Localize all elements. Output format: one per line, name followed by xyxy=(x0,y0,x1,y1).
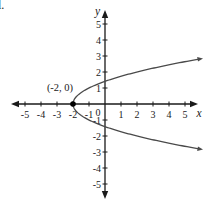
y-axis-bottom-arrow-icon xyxy=(102,191,108,199)
y-tick-label: -2 xyxy=(93,131,101,142)
x-tick-label: -4 xyxy=(37,109,45,120)
y-axis-top-arrow-icon xyxy=(102,10,108,18)
x-tick-label: 2 xyxy=(135,109,140,120)
origin-label: 0 xyxy=(96,107,101,118)
x-tick-label: 3 xyxy=(151,109,156,120)
y-tick-label: 5 xyxy=(96,19,101,30)
parabola-graph-canvas: -5-4-3-2-11234554321-1-2-3-4-50yx(-2, 0) xyxy=(0,0,204,211)
y-tick-label: -4 xyxy=(93,163,101,174)
curve-lower-arrow-icon xyxy=(197,146,203,151)
y-axis-label: y xyxy=(94,5,101,18)
x-axis-left-arrow-icon xyxy=(11,101,19,107)
x-tick-label: -5 xyxy=(21,109,29,120)
x-tick-label: 1 xyxy=(119,109,124,120)
list-item-marker-fragment: l. xyxy=(0,0,4,13)
x-tick-label: 4 xyxy=(167,109,172,120)
x-axis-label: x xyxy=(195,107,202,119)
y-tick-label: -3 xyxy=(93,147,101,158)
y-tick-label: -5 xyxy=(93,179,101,190)
curve-upper-arrow-icon xyxy=(197,57,203,62)
vertex-annotation: (-2, 0) xyxy=(47,82,74,94)
y-tick-label: 3 xyxy=(96,51,101,62)
y-tick-label: 2 xyxy=(96,67,101,78)
graph-figure: l. -5-4-3-2-11234554321-1-2-3-4-50yx(-2,… xyxy=(0,0,204,211)
y-tick-label: 4 xyxy=(96,35,101,46)
x-tick-label: -3 xyxy=(53,109,61,120)
x-tick-label: 5 xyxy=(183,109,188,120)
vertex-point xyxy=(70,101,76,107)
